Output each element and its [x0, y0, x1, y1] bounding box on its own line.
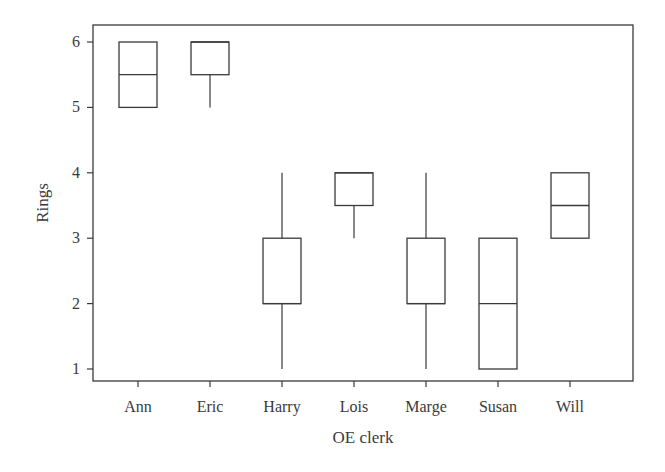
x-tick-label-eric: Eric [197, 398, 224, 415]
y-tick-label: 5 [72, 98, 80, 115]
box-marge [407, 173, 445, 369]
box-lois [335, 173, 373, 238]
y-axis: 123456 [72, 33, 93, 377]
x-tick-label-lois: Lois [340, 398, 368, 415]
y-tick-label: 1 [72, 360, 80, 377]
y-tick-label: 3 [72, 229, 80, 246]
box-harry [263, 173, 301, 369]
x-tick-label-susan: Susan [479, 398, 517, 415]
box-ann [119, 42, 157, 107]
x-tick-label-will: Will [556, 398, 584, 415]
x-axis: AnnEricHarryLoisMargeSusanWill [124, 381, 584, 416]
x-tick-label-marge: Marge [405, 398, 446, 416]
iqr-box [407, 238, 445, 303]
box-will [551, 173, 589, 238]
y-tick-label: 2 [72, 295, 80, 312]
box-eric [191, 42, 229, 107]
plot-frame [93, 25, 633, 381]
boxplot-chart: 123456 AnnEricHarryLoisMargeSusanWill Ri… [0, 0, 665, 472]
x-tick-label-harry: Harry [263, 398, 300, 416]
x-tick-label-ann: Ann [124, 398, 152, 415]
box-susan [479, 238, 517, 369]
y-tick-label: 4 [72, 164, 80, 181]
boxes [119, 42, 589, 369]
iqr-box [191, 42, 229, 75]
iqr-box [335, 173, 373, 206]
y-tick-label: 6 [72, 33, 80, 50]
y-axis-label: Rings [33, 183, 52, 223]
iqr-box [263, 238, 301, 303]
x-axis-label: OE clerk [333, 428, 394, 447]
